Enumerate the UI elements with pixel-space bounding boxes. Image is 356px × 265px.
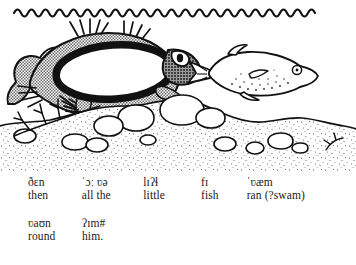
phonetic-text: fɪ — [201, 176, 208, 189]
water-surface-wave-line — [14, 10, 315, 17]
gloss-cell: ʔɪm# him. — [82, 217, 144, 244]
rock-mid-left — [94, 116, 123, 136]
gloss-cell: lɪʔɬ little — [143, 176, 201, 203]
rock-right-1 — [196, 108, 225, 128]
gloss-cell: ˈɔː ʋə all the — [82, 176, 144, 203]
gloss-text: fish — [201, 189, 219, 203]
small-spotted-fish — [188, 45, 318, 100]
transcription-line-2: ʋaʊn round ʔɪm# him. — [28, 217, 356, 244]
phonetic-text: ʋaʊn — [28, 217, 51, 230]
gloss-cell: ðɛn then — [28, 176, 82, 203]
gloss-text: him. — [82, 230, 103, 244]
rock-small-6 — [292, 143, 308, 153]
seabed — [0, 95, 356, 172]
phonetic-transcription-block: ðɛn then ˈɔː ʋə all the lɪʔɬ little fɪ f… — [0, 172, 356, 265]
gloss-cell: ˈʋæm ran (?swam) — [247, 176, 356, 203]
underwater-fish-illustration — [0, 0, 356, 172]
rock-small-4 — [246, 142, 264, 154]
phonetic-text: ˈʋæm — [247, 176, 273, 189]
gloss-text: ran (?swam) — [247, 189, 305, 203]
gloss-cell: fɪ fish — [201, 176, 247, 203]
small-fish-snout — [300, 66, 318, 87]
phonetic-text: ðɛn — [28, 176, 45, 189]
gloss-text: little — [143, 189, 165, 203]
gloss-cell: ʋaʊn round — [28, 217, 82, 244]
page: ðɛn then ˈɔː ʋə all the lɪʔɬ little fɪ f… — [0, 0, 356, 265]
rock-small-3 — [214, 137, 236, 151]
gloss-text: round — [28, 230, 55, 244]
transcription-line-1: ðɛn then ˈɔː ʋə all the lɪʔɬ little fɪ f… — [28, 176, 356, 203]
gloss-text: all the — [82, 189, 111, 203]
small-fish-eye — [292, 65, 301, 74]
phonetic-text: lɪʔɬ — [143, 176, 158, 189]
phonetic-text: ˈɔː ʋə — [82, 176, 108, 189]
rock-small-1 — [62, 134, 88, 150]
gloss-text: then — [28, 189, 48, 203]
rock-small-8 — [140, 135, 156, 145]
rock-small-2 — [86, 138, 108, 152]
rock-small-5 — [268, 133, 293, 149]
phonetic-text: ʔɪm# — [82, 217, 105, 230]
